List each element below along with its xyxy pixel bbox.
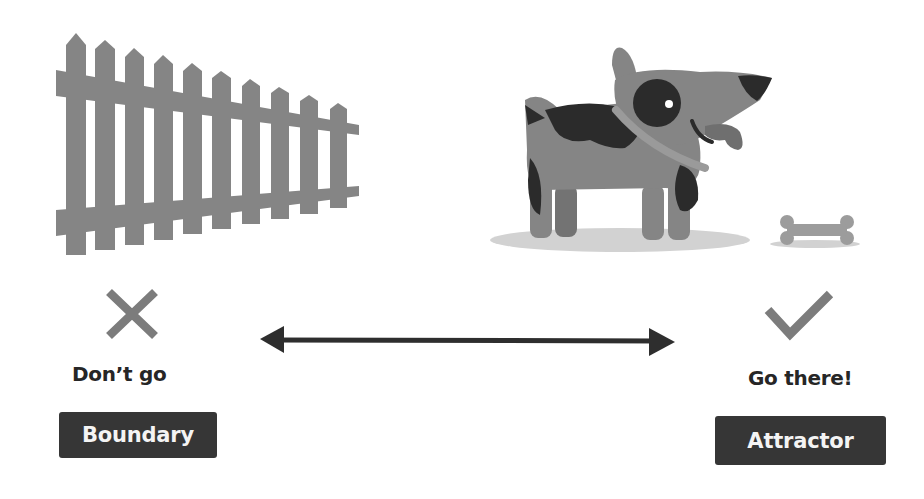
- boundary-tag: Boundary: [59, 412, 217, 458]
- double-arrow-icon: [255, 320, 680, 360]
- attractor-tag: Attractor: [715, 416, 886, 465]
- x-mark-icon: [103, 288, 161, 340]
- fence-illustration: [0, 0, 400, 270]
- dont-go-caption: Don’t go: [72, 362, 166, 386]
- go-there-caption: Go there!: [748, 366, 852, 390]
- check-mark-icon: [760, 290, 840, 346]
- dog-illustration: [460, 20, 880, 260]
